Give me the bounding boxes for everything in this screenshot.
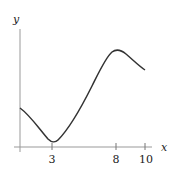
line-chart: 3 8 10 x y [0, 0, 176, 174]
x-tick-label-8: 8 [113, 153, 120, 166]
x-tick-label-3: 3 [49, 153, 56, 166]
x-tick-label-10: 10 [139, 153, 153, 166]
y-axis-label: y [12, 13, 20, 26]
function-curve [20, 50, 145, 142]
x-axis-label: x [161, 141, 168, 154]
